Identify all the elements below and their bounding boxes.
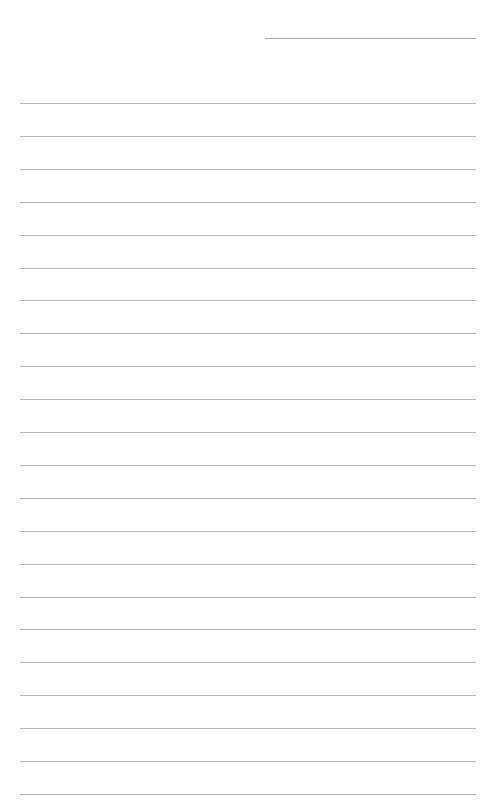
ruled-line <box>20 202 476 203</box>
ruled-line <box>20 465 476 466</box>
ruled-line <box>20 399 476 400</box>
ruled-line <box>20 662 476 663</box>
ruled-line <box>20 103 476 104</box>
ruled-line <box>20 235 476 236</box>
ruled-line <box>20 761 476 762</box>
ruled-line <box>20 333 476 334</box>
ruled-line <box>20 432 476 433</box>
header-line <box>265 38 476 39</box>
ruled-line <box>20 531 476 532</box>
ruled-line <box>20 300 476 301</box>
ruled-line <box>20 498 476 499</box>
ruled-line <box>20 136 476 137</box>
ruled-line <box>20 728 476 729</box>
ruled-line <box>20 695 476 696</box>
ruled-line <box>20 169 476 170</box>
ruled-line <box>20 794 476 795</box>
ruled-line <box>20 597 476 598</box>
lined-paper-page <box>0 0 486 802</box>
ruled-line <box>20 629 476 630</box>
ruled-line <box>20 268 476 269</box>
ruled-line <box>20 564 476 565</box>
ruled-line <box>20 366 476 367</box>
